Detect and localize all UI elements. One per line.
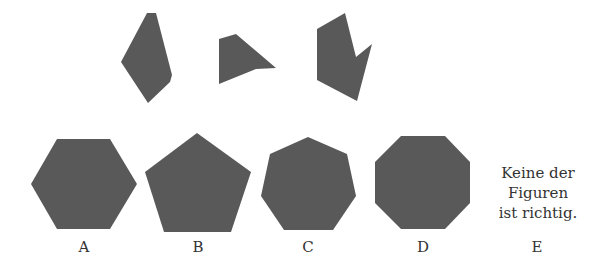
question-piece-2 [219,34,276,84]
figure-canvas [0,0,602,267]
option-e-line-1: Keine der [488,163,588,183]
option-d-octagon[interactable] [375,136,470,229]
question-piece-3 [317,13,372,101]
option-e-label[interactable]: E [517,238,557,256]
option-e-line-2: Figuren [488,183,588,203]
question-piece-1 [121,13,172,103]
option-d-label[interactable]: D [403,238,443,256]
option-e-text[interactable]: Keine der Figuren ist richtig. [488,163,588,223]
option-b-label[interactable]: B [178,238,218,256]
option-a-hexagon[interactable] [31,139,137,229]
option-c-label[interactable]: C [288,238,328,256]
option-a-label[interactable]: A [64,238,104,256]
option-b-pentagon[interactable] [145,133,251,232]
option-c-heptagon[interactable] [261,137,356,230]
option-e-line-3: ist richtig. [488,203,588,223]
